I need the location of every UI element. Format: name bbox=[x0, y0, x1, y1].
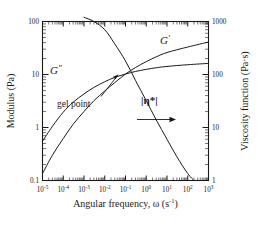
x-tick-label: 10-1 bbox=[120, 184, 132, 194]
svg-text:G″: G″ bbox=[50, 63, 62, 76]
x-tick-label: 102 bbox=[183, 184, 193, 194]
g-prime-base: G bbox=[160, 34, 168, 46]
x-tick-label: 10-3 bbox=[78, 184, 90, 194]
y-right-tick-label: 1 bbox=[212, 177, 216, 185]
x-tick-label: 10-4 bbox=[57, 184, 69, 194]
x-axis-title-text: Angular frequency, ω (s bbox=[73, 198, 169, 210]
x-tick-label: 10-5 bbox=[37, 184, 49, 194]
x-axis-title-tail: ) bbox=[175, 198, 178, 210]
y-axis-right-tick-labels: 1101001000 bbox=[212, 18, 227, 185]
g-prime-mark: ′ bbox=[168, 33, 171, 43]
curve-path bbox=[84, 17, 194, 180]
gel-point-text: gel point bbox=[57, 99, 91, 109]
x-tick-label: 101 bbox=[162, 184, 172, 194]
y-axis-right-title: Viscosity function (Pa·s) bbox=[239, 51, 251, 150]
svg-text:G′: G′ bbox=[160, 33, 171, 46]
y-right-tick-label: 100 bbox=[212, 71, 223, 79]
curve-label-g-prime: G′ bbox=[160, 33, 171, 46]
y-right-tick-label: 1000 bbox=[212, 18, 227, 26]
y-axis-right-title-text: Viscosity function (Pa·s) bbox=[239, 51, 251, 150]
eta-star-text: |η*| bbox=[141, 94, 158, 106]
series-eta bbox=[84, 17, 194, 180]
curve-label-eta-star: |η*| bbox=[141, 94, 158, 106]
y-left-tick-label: 1 bbox=[35, 124, 39, 132]
rheology-figure: 10-510-410-310-210-1100101102103 0.11101… bbox=[0, 0, 259, 228]
gel-point-arrow bbox=[101, 74, 119, 96]
x-tick-label: 10-2 bbox=[99, 184, 111, 194]
x-tick-label: 103 bbox=[204, 184, 214, 194]
x-axis-tick-labels: 10-510-410-310-210-1100101102103 bbox=[37, 184, 214, 194]
y-axis-left-title-text: Modulus (Pa) bbox=[5, 74, 17, 129]
y-axis-minor-ticks bbox=[43, 24, 209, 165]
y-axis-left-tick-labels: 0.1110100 bbox=[28, 18, 39, 185]
y-left-tick-label: 0.1 bbox=[30, 177, 39, 185]
svg-text:Angular frequency, ω (s-1): Angular frequency, ω (s-1) bbox=[73, 197, 178, 210]
x-tick-label: 100 bbox=[141, 184, 151, 194]
gel-point-label: gel point bbox=[57, 99, 91, 109]
y-left-tick-label: 10 bbox=[32, 71, 40, 79]
y-left-tick-label: 100 bbox=[28, 18, 39, 26]
x-axis-title: Angular frequency, ω (s-1) bbox=[73, 197, 178, 210]
y-axis-left-title: Modulus (Pa) bbox=[5, 74, 17, 129]
curve-label-g-double-prime: G″ bbox=[50, 63, 62, 76]
g-double-prime-mark: ″ bbox=[58, 63, 62, 73]
chart-canvas: 10-510-410-310-210-1100101102103 0.11101… bbox=[0, 0, 259, 228]
y-right-tick-label: 10 bbox=[212, 124, 220, 132]
g-double-prime-base: G bbox=[50, 64, 58, 76]
